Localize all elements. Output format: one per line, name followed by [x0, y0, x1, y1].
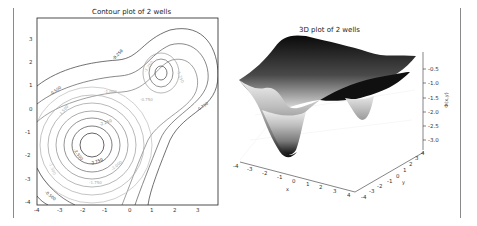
surface-xtick: 0: [292, 178, 296, 184]
surface-ytick: 2: [409, 161, 413, 167]
surface-ytick: 3: [415, 155, 419, 161]
surface-ztick: -1.5: [428, 95, 439, 101]
surface-ytick: 0: [396, 173, 400, 179]
surface-xtick: -1: [277, 174, 282, 180]
surface-ytick: -4: [361, 194, 366, 200]
surface-plot: [0, 0, 477, 226]
surface-xtick: 3: [333, 188, 337, 194]
surface-ylabel: y: [402, 179, 405, 185]
surface-ztick: -2.5: [428, 123, 439, 129]
surface-ytick: 1: [403, 167, 407, 173]
surface-ztick: -0.5: [428, 66, 439, 72]
surface-ytick: -2: [377, 183, 382, 189]
surface-xtick: -2: [262, 170, 267, 176]
surface-xtick: -3: [247, 166, 252, 172]
surface-xtick: 4: [347, 192, 351, 198]
surface-ztick: -2.0: [428, 109, 439, 115]
surface-ztick: -3.0: [428, 137, 439, 143]
surface-ytick: -3: [369, 188, 374, 194]
surface-xlabel: x: [286, 186, 289, 192]
surface-xtick: -4: [233, 163, 238, 169]
surface-xtick: 2: [319, 184, 323, 190]
surface-ytick: -1: [387, 178, 392, 184]
surface-ztick: -1.0: [428, 80, 439, 86]
surface-xtick: 1: [306, 181, 310, 187]
surface-zlabel: Φ(x,y): [443, 92, 449, 107]
surface-ytick: 4: [421, 150, 425, 156]
